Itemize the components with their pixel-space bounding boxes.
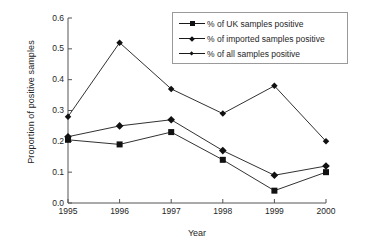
data-point xyxy=(219,147,227,155)
data-point xyxy=(116,122,124,130)
chart-figure: Proportion of positive samples 0.00.10.2… xyxy=(0,0,365,248)
legend-marker-small-diamond-icon xyxy=(179,48,205,60)
data-point xyxy=(167,116,175,124)
legend-label: % of imported samples positive xyxy=(205,34,325,44)
data-point xyxy=(65,113,72,120)
data-point xyxy=(323,169,329,175)
data-point xyxy=(220,110,227,117)
legend-label: % of all samples positive xyxy=(205,49,300,59)
data-point xyxy=(220,157,226,163)
legend-label: % of UK samples positive xyxy=(205,19,303,29)
data-point xyxy=(271,188,277,194)
data-series xyxy=(64,116,330,179)
data-series xyxy=(65,129,329,194)
x-axis-ticks xyxy=(68,199,326,203)
legend-item-all: % of all samples positive xyxy=(173,46,347,61)
chart-legend: % of UK samples positive % of imported s… xyxy=(172,12,348,64)
y-axis-ticks xyxy=(68,18,72,203)
legend-marker-square-icon xyxy=(179,18,205,30)
data-point xyxy=(168,129,174,135)
data-point xyxy=(117,141,123,147)
legend-marker-diamond-icon xyxy=(179,33,205,45)
legend-item-imported: % of imported samples positive xyxy=(173,31,347,46)
legend-item-uk: % of UK samples positive xyxy=(173,16,347,31)
data-point xyxy=(271,171,279,179)
data-point xyxy=(322,162,330,170)
